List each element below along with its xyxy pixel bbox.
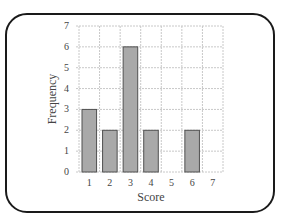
y-tick-label: 6: [64, 41, 69, 52]
x-tick-label: 3: [128, 177, 133, 188]
y-tick-label: 5: [64, 62, 69, 73]
bar-1: [82, 109, 97, 172]
x-tick-label: 7: [210, 177, 215, 188]
y-tick-label: 1: [64, 145, 69, 156]
x-axis-ticks: 1234567: [87, 177, 215, 188]
y-axis-ticks: 01234567: [64, 20, 69, 177]
x-tick-label: 5: [169, 177, 174, 188]
bar-3: [123, 47, 138, 172]
x-tick-label: 4: [149, 177, 154, 188]
x-tick-label: 1: [87, 177, 92, 188]
bar-6: [185, 130, 200, 172]
y-tick-label: 7: [64, 20, 69, 31]
x-tick-label: 2: [107, 177, 112, 188]
y-axis-label: Frequency: [45, 74, 59, 125]
y-tick-label: 3: [64, 103, 69, 114]
bar-4: [144, 130, 159, 172]
y-tick-label: 4: [64, 83, 69, 94]
y-tick-label: 0: [64, 166, 69, 177]
x-axis-label: Score: [137, 190, 164, 204]
bar-2: [103, 130, 118, 172]
x-tick-label: 6: [190, 177, 195, 188]
bar-chart: 01234567 1234567 Score Frequency: [0, 0, 283, 224]
y-tick-label: 2: [64, 124, 69, 135]
